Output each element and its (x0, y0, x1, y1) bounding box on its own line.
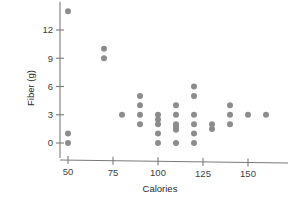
data-point (119, 112, 125, 118)
data-point (65, 140, 71, 146)
data-point (65, 131, 71, 137)
data-point (227, 102, 233, 108)
x-tick-label: 125 (195, 168, 211, 179)
plot-area: 036912 5075100125150 Calories Fiber (g) (0, 0, 295, 197)
data-point (191, 121, 197, 127)
data-point (209, 126, 215, 132)
data-point (227, 112, 233, 118)
x-axis: 5075100125150 (60, 156, 288, 179)
data-point (65, 8, 71, 14)
x-tick-label: 75 (108, 167, 119, 178)
y-tick-label: 12 (42, 24, 53, 35)
x-tick-label: 50 (63, 166, 74, 177)
x-axis-title: Calories (143, 183, 178, 194)
data-point (137, 121, 143, 127)
x-tick-label: 100 (150, 167, 166, 178)
data-point (155, 140, 161, 146)
data-point (173, 102, 179, 108)
data-point (101, 46, 107, 52)
data-point (173, 127, 179, 133)
data-points-layer (65, 8, 269, 146)
data-point (137, 93, 143, 99)
data-point (173, 112, 179, 118)
y-tick-label: 3 (48, 109, 53, 120)
y-tick-label: 0 (48, 137, 53, 148)
data-point (191, 131, 197, 137)
scatter-chart: 036912 5075100125150 Calories Fiber (g) (0, 0, 295, 197)
data-point (137, 112, 143, 118)
data-point (173, 140, 179, 146)
data-point (137, 102, 143, 108)
x-tick-label: 150 (240, 168, 256, 179)
data-point (155, 131, 161, 137)
y-tick-label: 9 (48, 53, 53, 64)
data-point (101, 55, 107, 61)
data-point (191, 93, 197, 99)
data-point (155, 121, 161, 127)
x-axis-line (60, 160, 288, 163)
data-point (191, 84, 197, 90)
y-tick-label: 6 (48, 81, 53, 92)
data-point (191, 112, 197, 118)
data-point (263, 112, 269, 118)
data-point (227, 121, 233, 127)
y-axis: 036912 (42, 2, 64, 158)
data-point (245, 112, 251, 118)
y-axis-title: Fiber (g) (25, 70, 36, 106)
data-point (191, 140, 197, 146)
